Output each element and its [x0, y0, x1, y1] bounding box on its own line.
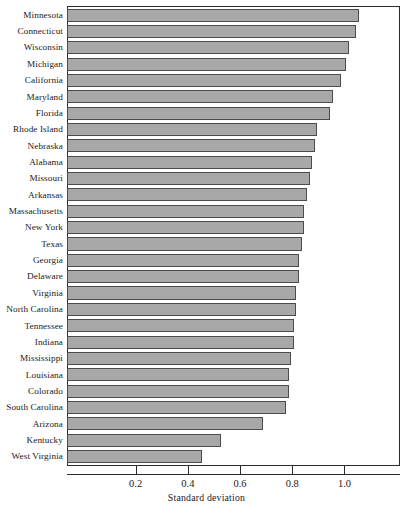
- category-label: Arizona: [0, 419, 63, 429]
- category-label: North Carolina: [0, 304, 63, 314]
- bar: [67, 450, 202, 463]
- bar: [67, 417, 263, 430]
- bar: [67, 401, 286, 414]
- bar: [67, 368, 289, 381]
- category-label: Mississippi: [0, 353, 63, 363]
- bar-row: [68, 399, 399, 415]
- category-label: Minnesota: [0, 10, 63, 20]
- bar-row: [68, 416, 399, 432]
- bar-row: [68, 23, 399, 39]
- bar-row: [68, 367, 399, 383]
- bar-row: [68, 138, 399, 154]
- category-label: Wisconsin: [0, 42, 63, 52]
- bar: [67, 270, 299, 283]
- bar: [67, 385, 289, 398]
- category-label: Colorado: [0, 386, 63, 396]
- bar: [67, 303, 296, 316]
- bar: [67, 188, 307, 201]
- x-axis-tick: [240, 466, 241, 475]
- category-label: Virginia: [0, 288, 63, 298]
- bar-row: [68, 89, 399, 105]
- x-axis-tick: [344, 466, 345, 475]
- bar-row: [68, 105, 399, 121]
- x-axis-line: [67, 474, 400, 475]
- bar-chart: MinnesotaConnecticutWisconsinMichiganCal…: [0, 0, 413, 514]
- bar: [67, 286, 296, 299]
- bar-row: [68, 40, 399, 56]
- bar-row: [68, 170, 399, 186]
- bar: [67, 336, 294, 349]
- category-label: Nebraska: [0, 141, 63, 151]
- bar-row: [68, 269, 399, 285]
- category-label: Missouri: [0, 173, 63, 183]
- category-label: Texas: [0, 239, 63, 249]
- category-label: Delaware: [0, 271, 63, 281]
- bar-row: [68, 334, 399, 350]
- bar: [67, 319, 294, 332]
- category-label: Louisiana: [0, 370, 63, 380]
- bar-row: [68, 219, 399, 235]
- bar-row: [68, 203, 399, 219]
- category-label: Arkansas: [0, 190, 63, 200]
- category-label: Michigan: [0, 59, 63, 69]
- bar-row: [68, 236, 399, 252]
- bar: [67, 237, 302, 250]
- category-label: Tennessee: [0, 321, 63, 331]
- x-axis-tick: [292, 466, 293, 475]
- bar: [67, 205, 304, 218]
- bar-row: [68, 72, 399, 88]
- category-label: New York: [0, 222, 63, 232]
- category-label: Florida: [0, 108, 63, 118]
- category-label: Alabama: [0, 157, 63, 167]
- bar: [67, 58, 346, 71]
- bar: [67, 41, 349, 54]
- category-label: Rhode Island: [0, 124, 63, 134]
- category-label: Connecticut: [0, 26, 63, 36]
- x-axis-title: Standard deviation: [0, 492, 413, 503]
- bar: [67, 25, 356, 38]
- bar: [67, 221, 304, 234]
- category-label: California: [0, 75, 63, 85]
- bar: [67, 9, 359, 22]
- x-axis-tick-label: 0.6: [220, 478, 260, 489]
- bar-row: [68, 121, 399, 137]
- bar-row: [68, 285, 399, 301]
- bar: [67, 172, 310, 185]
- category-axis-labels: MinnesotaConnecticutWisconsinMichiganCal…: [0, 7, 63, 465]
- bar-row: [68, 383, 399, 399]
- bar: [67, 254, 299, 267]
- category-label: Kentucky: [0, 435, 63, 445]
- bar-row: [68, 7, 399, 23]
- category-label: Indiana: [0, 337, 63, 347]
- x-axis-tick-label: 0.4: [168, 478, 208, 489]
- bar: [67, 352, 291, 365]
- bar: [67, 156, 312, 169]
- bar-row: [68, 432, 399, 448]
- bar-row: [68, 187, 399, 203]
- bar: [67, 90, 333, 103]
- bar: [67, 434, 221, 447]
- x-axis-tick-label: 0.8: [272, 478, 312, 489]
- bar-rows: [68, 7, 399, 465]
- x-axis-tick-label: 1.0: [324, 478, 364, 489]
- bar-row: [68, 252, 399, 268]
- bar-row: [68, 350, 399, 366]
- bar: [67, 74, 341, 87]
- category-label: Maryland: [0, 92, 63, 102]
- bar-row: [68, 448, 399, 464]
- bar: [67, 107, 330, 120]
- category-label: Georgia: [0, 255, 63, 265]
- x-axis-tick: [188, 466, 189, 475]
- category-label: West Virginia: [0, 451, 63, 461]
- bar-row: [68, 154, 399, 170]
- bar-row: [68, 318, 399, 334]
- x-axis-tick: [136, 466, 137, 475]
- category-label: South Carolina: [0, 402, 63, 412]
- bar: [67, 123, 317, 136]
- x-axis-tick-label: 0.2: [116, 478, 156, 489]
- bar: [67, 139, 315, 152]
- bar-row: [68, 301, 399, 317]
- category-label: Massachusetts: [0, 206, 63, 216]
- bar-row: [68, 56, 399, 72]
